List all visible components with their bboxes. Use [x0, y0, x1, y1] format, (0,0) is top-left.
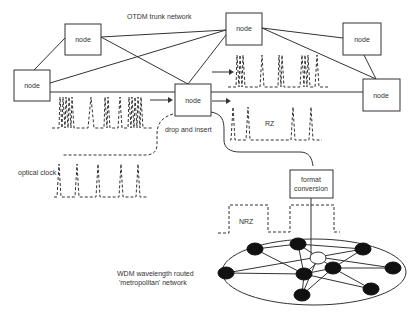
wdm-node	[296, 268, 312, 280]
wdm-gateway-node	[310, 252, 326, 264]
clock-feed-path	[62, 114, 173, 155]
svg-text:node: node	[236, 25, 252, 32]
svg-text:conversion: conversion	[294, 185, 328, 192]
arrow-through-icon	[212, 69, 234, 75]
node-1: node	[65, 24, 101, 55]
wdm-node	[218, 267, 234, 279]
node-2: node	[14, 70, 50, 101]
wdm-node	[355, 243, 371, 255]
node-3-drop-insert: node	[175, 84, 211, 116]
drop-to-format-path	[211, 112, 313, 166]
node-6: node	[363, 79, 400, 111]
svg-text:node: node	[354, 36, 370, 43]
svg-text:node: node	[185, 97, 201, 104]
rz-pulse-train	[230, 107, 322, 140]
wdm-network	[218, 238, 406, 305]
svg-text:node: node	[24, 82, 40, 89]
format-conversion-box: format conversion	[290, 170, 333, 198]
drop-insert-label: drop and insert	[165, 126, 212, 134]
node-5: node	[343, 23, 381, 55]
wdm-node	[325, 262, 341, 274]
otdm-pulse-train-out	[228, 55, 328, 87]
otdm-pulse-train-in	[52, 97, 152, 128]
svg-text:node: node	[373, 92, 389, 99]
wdm-node	[294, 289, 310, 301]
arrow-drop-icon	[212, 98, 231, 104]
wdm-node	[385, 262, 401, 274]
optical-clock-pulses	[54, 164, 148, 197]
nrz-label: NRZ	[239, 218, 254, 225]
wdm-node	[363, 283, 379, 295]
otdm-wdm-diagram: node node node node node node OTDM trunk…	[0, 0, 416, 317]
node-4: node	[226, 13, 262, 45]
nrz-waveform	[218, 205, 340, 233]
wdm-node	[290, 238, 306, 250]
wdm-node	[247, 243, 263, 255]
svg-text:node: node	[75, 36, 91, 43]
otdm-title: OTDM trunk network	[127, 13, 192, 20]
optical-clock-label: optical clock	[18, 169, 57, 177]
wdm-label-line1: WDM wavelength routed	[117, 270, 194, 278]
svg-text:format: format	[301, 176, 321, 183]
wdm-label-line2: 'metropolitan' network	[119, 279, 187, 287]
arrow-in-icon	[150, 97, 173, 103]
rz-label: RZ	[265, 120, 275, 127]
